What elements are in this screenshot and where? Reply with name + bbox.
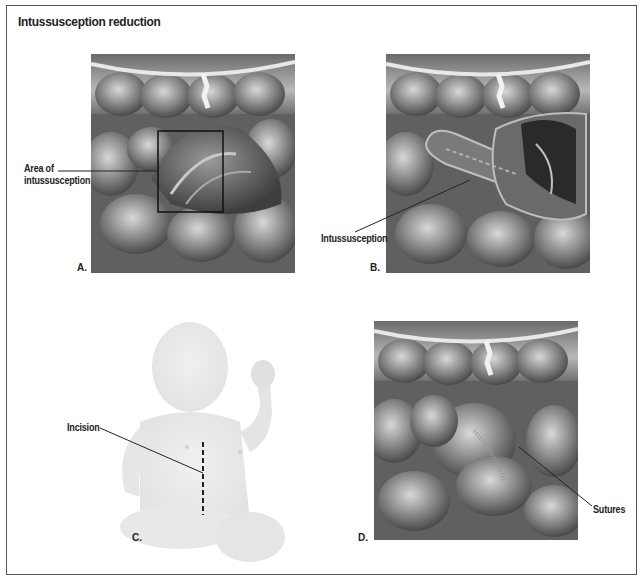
panel-d-letter: D. xyxy=(358,532,368,543)
panel-c-illustration xyxy=(110,312,290,567)
figure-title: Intussusception reduction xyxy=(18,14,161,29)
callout-intussusception: Intussusception xyxy=(321,233,387,245)
panel-b-illustration xyxy=(386,54,590,273)
panel-a-illustration xyxy=(91,54,295,273)
panel-d-illustration xyxy=(374,321,578,540)
callout-incision: Incision xyxy=(67,422,100,434)
panel-c-letter: C. xyxy=(132,532,142,543)
panel-a-letter: A. xyxy=(77,262,87,273)
callout-area-of-intussusception: Area of intussusception xyxy=(24,163,90,187)
panel-b-letter: B. xyxy=(370,262,380,273)
callout-sutures: Sutures xyxy=(593,504,625,516)
